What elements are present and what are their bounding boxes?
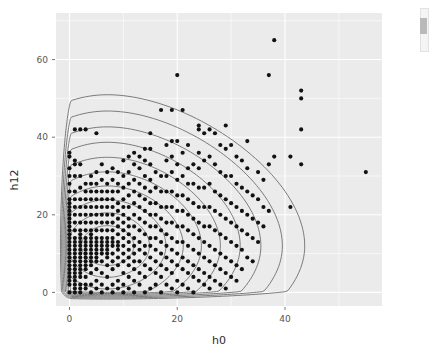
data-point (148, 236, 152, 240)
data-point (111, 197, 115, 201)
data-point (67, 275, 71, 279)
data-point (84, 228, 88, 232)
data-point (67, 240, 71, 244)
data-point (159, 263, 163, 267)
data-point (73, 286, 77, 290)
data-point (197, 205, 201, 209)
data-point (78, 271, 82, 275)
data-point (73, 213, 77, 217)
data-point (234, 244, 238, 248)
vertical-scrollbar-track[interactable] (420, 8, 429, 52)
data-point (121, 158, 125, 162)
data-point (251, 259, 255, 263)
data-point (170, 205, 174, 209)
data-point (105, 205, 109, 209)
data-point (67, 155, 71, 159)
data-point (181, 193, 185, 197)
data-point (132, 201, 136, 205)
data-point (121, 259, 125, 263)
data-point (132, 259, 136, 263)
data-point (89, 263, 93, 267)
data-point (94, 286, 98, 290)
data-point (84, 213, 88, 217)
data-point (67, 267, 71, 271)
data-point (234, 279, 238, 283)
data-point (170, 170, 174, 174)
data-point (261, 205, 265, 209)
data-point (73, 259, 77, 263)
x-axis-title: h0 (212, 334, 226, 347)
data-point (175, 290, 179, 294)
data-point (73, 220, 77, 224)
y-tick-label: 0 (42, 288, 48, 298)
data-point (89, 255, 93, 259)
data-point (137, 182, 141, 186)
data-point (116, 209, 120, 213)
data-point (94, 267, 98, 271)
data-point (121, 283, 125, 287)
data-point (100, 228, 104, 232)
data-point (84, 189, 88, 193)
data-point (78, 197, 82, 201)
data-point (121, 213, 125, 217)
data-point (105, 248, 109, 252)
data-point (116, 244, 120, 248)
data-point (94, 228, 98, 232)
data-point (94, 220, 98, 224)
data-point (111, 267, 115, 271)
data-point (73, 205, 77, 209)
data-point (175, 139, 179, 143)
data-point (67, 279, 71, 283)
data-point (127, 275, 131, 279)
data-point (218, 143, 222, 147)
data-point (132, 178, 136, 182)
data-point (170, 286, 174, 290)
data-point (224, 217, 228, 221)
data-point (148, 255, 152, 259)
data-point (159, 205, 163, 209)
data-point (105, 220, 109, 224)
data-point (197, 220, 201, 224)
scatter-plot-figure: 020400204060 h0 h12 (0, 0, 429, 357)
data-point (197, 123, 201, 127)
vertical-scrollbar-thumb[interactable] (420, 18, 427, 34)
data-point (170, 189, 174, 193)
data-point (197, 186, 201, 190)
y-tick-label: 20 (37, 210, 49, 220)
data-point (154, 283, 158, 287)
panel-background (56, 13, 382, 306)
y-axis-title: h12 (8, 170, 21, 191)
data-point (73, 263, 77, 267)
data-point (218, 252, 222, 256)
data-point (89, 244, 93, 248)
data-point (100, 240, 104, 244)
data-point (202, 283, 206, 287)
data-point (175, 263, 179, 267)
data-point (154, 201, 158, 205)
data-point (159, 290, 163, 294)
data-point (229, 143, 233, 147)
data-point (202, 158, 206, 162)
data-point (143, 158, 147, 162)
data-point (67, 151, 71, 155)
data-point (164, 255, 168, 259)
data-point (143, 244, 147, 248)
data-point (84, 197, 88, 201)
data-point (191, 290, 195, 294)
data-point (105, 182, 109, 186)
data-point (89, 197, 93, 201)
data-point (111, 252, 115, 256)
data-point (197, 279, 201, 283)
data-point (170, 271, 174, 275)
data-point (208, 244, 212, 248)
data-point (116, 263, 120, 267)
data-point (121, 220, 125, 224)
data-point (89, 228, 93, 232)
data-point (84, 255, 88, 259)
data-point (67, 189, 71, 193)
data-point (143, 252, 147, 256)
data-point (116, 286, 120, 290)
data-point (116, 182, 120, 186)
data-point (164, 267, 168, 271)
data-point (272, 38, 276, 42)
